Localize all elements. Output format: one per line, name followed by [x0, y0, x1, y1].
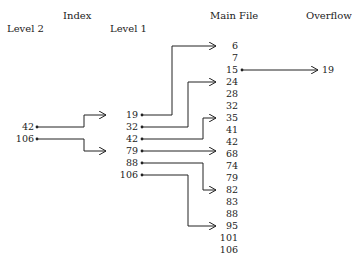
- arrow-l1-42-to-35: [142, 118, 216, 139]
- arrow-l2-42-to-l1-19: [37, 115, 106, 127]
- arrow-l1-19-to-6: [142, 46, 216, 115]
- arrow-l1-32-to-24: [142, 82, 216, 127]
- arrow-l1-106-to-95: [142, 175, 216, 226]
- arrow-l1-88-to-82: [142, 163, 216, 190]
- arrow-l2-106-to-l1-79: [37, 139, 106, 151]
- pointer-arrows: [0, 0, 352, 264]
